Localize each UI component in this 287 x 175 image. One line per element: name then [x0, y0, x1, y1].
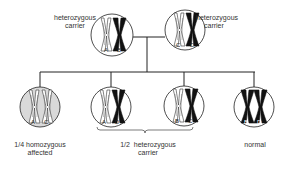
- inheritance-diagram: A B C D A C A D: [0, 0, 287, 175]
- label-line: affected: [5, 149, 75, 157]
- allele-label: B: [244, 119, 248, 125]
- child-2-cell: A D: [91, 87, 131, 127]
- child-4-cell: B D: [234, 87, 274, 127]
- allele-label: B: [175, 118, 179, 124]
- allele-label: D: [190, 42, 195, 48]
- label-line: heterozygous: [48, 14, 102, 22]
- normal-outcome-label: normal: [230, 141, 280, 149]
- carrier-bracket: [97, 127, 193, 133]
- child-3-cell: B C: [164, 86, 204, 126]
- label-line: normal: [230, 141, 280, 149]
- label-line: carrier: [48, 22, 102, 30]
- child-1-cell: A C: [20, 87, 60, 127]
- allele-label: C: [44, 119, 49, 125]
- allele-label: D: [257, 119, 262, 125]
- parent-2-label: heterozygous carrier: [196, 14, 250, 30]
- allele-label: A: [31, 119, 35, 125]
- label-line: 1/2 heterozygous: [110, 141, 186, 149]
- label-line: carrier: [196, 22, 250, 30]
- allele-label: A: [104, 47, 108, 53]
- carrier-outcome-label: 1/2 heterozygous carrier: [110, 141, 186, 157]
- label-line: heterozygous: [196, 14, 250, 22]
- parent-1-label: heterozygous carrier: [48, 14, 102, 30]
- allele-label: C: [176, 42, 181, 48]
- pedigree-lines: [40, 37, 255, 87]
- allele-label: D: [115, 119, 120, 125]
- allele-label: C: [188, 118, 193, 124]
- affected-outcome-label: 1/4 homozygous affected: [5, 141, 75, 157]
- label-line: carrier: [110, 149, 186, 157]
- label-line: 1/4 homozygous: [5, 141, 75, 149]
- allele-label: B: [117, 47, 121, 53]
- allele-label: A: [102, 119, 106, 125]
